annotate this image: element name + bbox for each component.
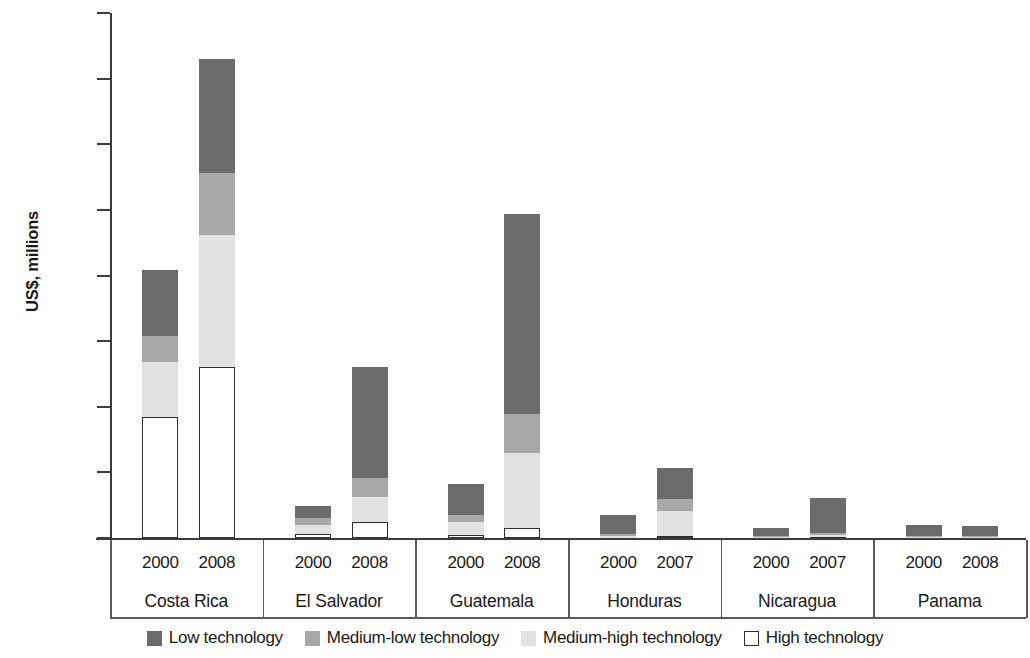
group-separator bbox=[721, 540, 723, 618]
x-axis-year-label: 2008 bbox=[330, 553, 410, 573]
bar-segment-low-technology bbox=[657, 468, 693, 500]
bar-segment-medium-low-technology bbox=[199, 173, 235, 235]
bar-segment-low-technology bbox=[810, 498, 846, 533]
bar-segment-medium-low-technology bbox=[600, 534, 636, 536]
bar-segment-medium-low-technology bbox=[448, 515, 484, 522]
bar-el-salvador-2000[interactable] bbox=[295, 506, 331, 538]
bar-segment-medium-high-technology bbox=[600, 536, 636, 538]
legend-label: Low technology bbox=[169, 628, 283, 648]
bar-segment-medium-low-technology bbox=[906, 536, 942, 537]
legend-item[interactable]: Low technology bbox=[147, 628, 283, 648]
group-underline bbox=[110, 617, 263, 619]
bar-segment-medium-high-technology bbox=[142, 362, 178, 417]
bar-segment-high-technology bbox=[352, 522, 388, 538]
group-separator bbox=[568, 540, 570, 618]
y-axis-tick-mark bbox=[97, 143, 110, 145]
y-axis-tick-mark bbox=[97, 209, 110, 211]
plot-area bbox=[110, 13, 1026, 538]
group-underline bbox=[721, 617, 874, 619]
bar-segment-medium-high-technology bbox=[906, 537, 942, 538]
group-underline bbox=[873, 617, 1026, 619]
x-axis-year-label: 2008 bbox=[940, 553, 1020, 573]
bar-segment-medium-high-technology bbox=[962, 537, 998, 538]
bar-segment-low-technology bbox=[448, 484, 484, 516]
legend-swatch-icon bbox=[305, 631, 320, 646]
bar-segment-low-technology bbox=[600, 515, 636, 535]
legend-label: Medium-low technology bbox=[327, 628, 499, 648]
bar-segment-medium-low-technology bbox=[962, 536, 998, 537]
bar-panama-2008[interactable] bbox=[962, 526, 998, 538]
chart-legend: Low technologyMedium-low technologyMediu… bbox=[0, 628, 1030, 648]
y-axis-tick-mark bbox=[97, 406, 110, 408]
bar-segment-high-technology bbox=[142, 417, 178, 538]
legend-swatch-icon bbox=[147, 631, 162, 646]
bar-segment-high-technology bbox=[199, 367, 235, 538]
bar-segment-medium-low-technology bbox=[504, 414, 540, 453]
bar-segment-medium-high-technology bbox=[753, 537, 789, 538]
group-separator bbox=[263, 540, 265, 618]
bar-segment-medium-high-technology bbox=[199, 235, 235, 368]
y-axis-tick-mark bbox=[97, 12, 110, 14]
bar-segment-medium-low-technology bbox=[352, 478, 388, 497]
bar-costa-rica-2008[interactable] bbox=[199, 59, 235, 538]
legend-label: High technology bbox=[766, 628, 883, 648]
x-axis-year-label: 2007 bbox=[788, 553, 868, 573]
bar-segment-low-technology bbox=[906, 525, 942, 536]
group-separator bbox=[415, 540, 417, 618]
bar-segment-low-technology bbox=[352, 367, 388, 477]
y-axis-tick-mark bbox=[97, 537, 110, 539]
bar-segment-medium-high-technology bbox=[295, 525, 331, 534]
bar-segment-low-technology bbox=[295, 506, 331, 518]
bar-segment-medium-low-technology bbox=[657, 499, 693, 511]
bar-segment-low-technology bbox=[199, 59, 235, 173]
y-axis-tick-mark bbox=[97, 78, 110, 80]
y-axis-tick-mark bbox=[97, 275, 110, 277]
bar-costa-rica-2000[interactable] bbox=[142, 270, 178, 538]
bar-nicaragua-2000[interactable] bbox=[753, 528, 789, 538]
bar-honduras-2007[interactable] bbox=[657, 468, 693, 538]
group-underline bbox=[568, 617, 721, 619]
legend-item[interactable]: Medium-high technology bbox=[521, 628, 722, 648]
legend-item[interactable]: High technology bbox=[744, 628, 883, 648]
bar-segment-high-technology bbox=[657, 536, 693, 538]
group-underline bbox=[415, 617, 568, 619]
group-separator bbox=[873, 540, 875, 618]
bar-segment-medium-low-technology bbox=[753, 536, 789, 537]
bar-segment-low-technology bbox=[142, 270, 178, 336]
bar-segment-low-technology bbox=[504, 214, 540, 414]
bar-segment-medium-low-technology bbox=[295, 518, 331, 525]
bar-honduras-2000[interactable] bbox=[600, 515, 636, 538]
bar-segment-low-technology bbox=[753, 528, 789, 537]
stacked-bar-chart: US$, millions Low technologyMedium-low t… bbox=[0, 0, 1030, 658]
bar-segment-medium-low-technology bbox=[810, 533, 846, 536]
x-axis-year-label: 2007 bbox=[635, 553, 715, 573]
bar-el-salvador-2008[interactable] bbox=[352, 367, 388, 538]
bar-nicaragua-2007[interactable] bbox=[810, 498, 846, 538]
bar-panama-2000[interactable] bbox=[906, 525, 942, 538]
group-underline bbox=[263, 617, 416, 619]
group-separator bbox=[110, 540, 112, 618]
legend-swatch-icon bbox=[744, 631, 759, 646]
x-axis-year-label: 2008 bbox=[482, 553, 562, 573]
legend-item[interactable]: Medium-low technology bbox=[305, 628, 499, 648]
bar-segment-medium-high-technology bbox=[352, 497, 388, 522]
bar-segment-medium-high-technology bbox=[448, 522, 484, 534]
y-axis-tick-mark bbox=[97, 340, 110, 342]
bar-guatemala-2008[interactable] bbox=[504, 214, 540, 538]
bar-guatemala-2000[interactable] bbox=[448, 484, 484, 538]
legend-swatch-icon bbox=[521, 631, 536, 646]
y-axis-tick-mark bbox=[97, 471, 110, 473]
x-axis-line bbox=[96, 538, 1026, 540]
legend-label: Medium-high technology bbox=[543, 628, 722, 648]
bar-segment-medium-high-technology bbox=[810, 535, 846, 537]
x-axis-year-label: 2008 bbox=[177, 553, 257, 573]
bar-segment-medium-high-technology bbox=[504, 453, 540, 528]
bar-segment-low-technology bbox=[962, 526, 998, 537]
bar-segment-high-technology bbox=[504, 528, 540, 539]
bar-segment-medium-high-technology bbox=[657, 511, 693, 536]
x-axis-group-label: Panama bbox=[840, 591, 1030, 612]
group-separator bbox=[1026, 540, 1028, 618]
bar-segment-medium-low-technology bbox=[142, 336, 178, 362]
bar-segment-high-technology bbox=[295, 534, 331, 538]
bar-segment-high-technology bbox=[448, 535, 484, 538]
